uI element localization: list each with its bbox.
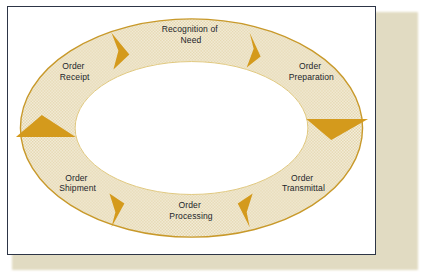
order-cycle-figure: Recognition of Need Order Preparation Or… (0, 0, 426, 278)
cycle-diagram-canvas: Recognition of Need Order Preparation Or… (8, 7, 375, 254)
stage-label-order-receipt: Order Receipt (60, 62, 90, 83)
diagram-frame: Recognition of Need Order Preparation Or… (7, 6, 376, 255)
ring-inner-edge (75, 62, 308, 195)
